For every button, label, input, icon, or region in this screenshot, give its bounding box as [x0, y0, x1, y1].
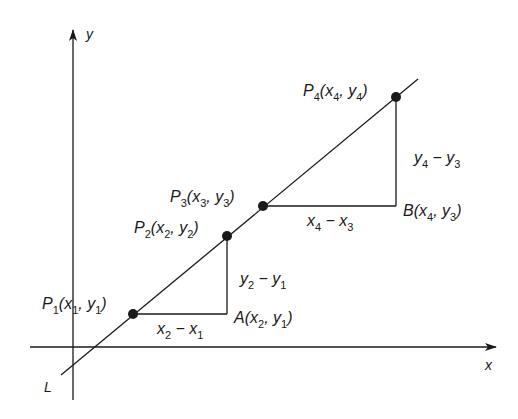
slope-diagram: y x L P1(x1, y1) P2(x2, y2) P3(x3, y3) P… [0, 0, 518, 419]
line-l [61, 79, 418, 375]
diagram-svg: y x L P1(x1, y1) P2(x2, y2) P3(x3, y3) P… [0, 0, 518, 419]
label-a: A(x2, y1) [233, 309, 292, 330]
point-p2 [222, 231, 232, 241]
point-p3 [258, 201, 268, 211]
x-axis-label: x [484, 357, 493, 373]
label-p1: P1(x1, y1) [42, 295, 107, 316]
point-p1 [128, 309, 138, 319]
y-axis-label: y [85, 26, 94, 42]
label-p4: P4(x4, y4) [303, 82, 368, 103]
label-run-1: x2 − x1 [156, 320, 203, 341]
label-b: B(x4, y3) [403, 202, 461, 223]
point-p4 [391, 92, 401, 102]
label-rise-1: y2 − y1 [239, 270, 286, 291]
label-run-2: x4 − x3 [306, 212, 353, 233]
line-label: L [44, 379, 52, 395]
label-p3: P3(x3, y3) [170, 188, 235, 209]
label-rise-2: y4 − y3 [413, 149, 460, 170]
label-p2: P2(x2, y2) [134, 219, 199, 240]
